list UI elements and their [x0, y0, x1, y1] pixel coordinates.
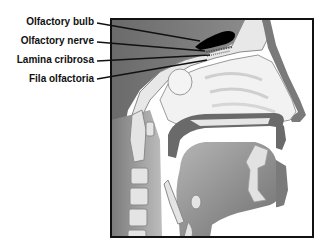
hyoid [191, 195, 201, 209]
label-olfactory-bulb: Olfactory bulb [26, 16, 94, 28]
label-fila-olfactoria: Fila olfactoria [29, 73, 94, 85]
cervical-spine [128, 110, 148, 242]
anatomy-group [111, 19, 313, 242]
sphenoid-sinus [168, 69, 192, 95]
label-olfactory-nerve: Olfactory nerve [21, 35, 94, 47]
vertebra-process [146, 122, 154, 136]
label-lamina-cribrosa: Lamina cribrosa [17, 54, 94, 66]
